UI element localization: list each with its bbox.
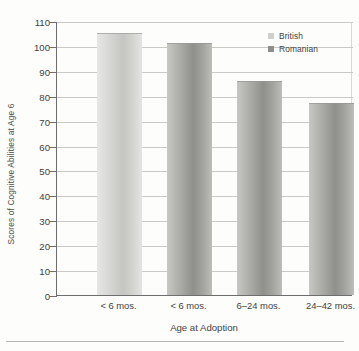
legend-item: Romanian <box>268 43 318 54</box>
bar-cap <box>167 43 212 44</box>
y-axis-tick-label: 60 <box>4 141 50 152</box>
y-axis-tick <box>49 22 57 23</box>
x-axis-tick-labels: < 6 mos.< 6 mos.6–24 mos.24–42 mos. <box>56 300 352 316</box>
y-axis-tick-label: 10 <box>4 266 50 277</box>
bar-cap <box>97 33 142 34</box>
y-axis-tick-label: 50 <box>4 166 50 177</box>
bar <box>309 103 354 295</box>
y-axis-tick-label: 70 <box>4 116 50 127</box>
y-axis-tick <box>49 122 57 123</box>
y-axis-tick <box>49 47 57 48</box>
bar <box>167 43 212 295</box>
y-axis-tick <box>49 296 57 297</box>
legend-swatch-british <box>268 33 274 39</box>
y-axis-tick <box>49 147 57 148</box>
y-axis-tick <box>49 271 57 272</box>
y-axis-tick-label: 100 <box>4 41 50 52</box>
gridline <box>57 22 353 23</box>
bar <box>97 33 142 295</box>
y-axis-tick <box>49 196 57 197</box>
y-axis-tick-label: 110 <box>4 17 50 28</box>
x-axis-tick-label: 24–42 mos. <box>286 300 359 311</box>
y-axis-tick <box>49 221 57 222</box>
plot-area <box>56 22 352 296</box>
y-axis-tick-label: 90 <box>4 66 50 77</box>
legend-label: Romanian <box>279 44 318 54</box>
bar-cap <box>237 81 282 82</box>
legend-swatch-romanian <box>268 46 274 52</box>
y-axis-tick-label: 40 <box>4 191 50 202</box>
bar <box>237 81 282 295</box>
y-axis-tick-label: 20 <box>4 241 50 252</box>
bar-cap <box>309 103 354 104</box>
chart-legend: BritishRomanian <box>268 30 318 56</box>
legend-item: British <box>268 30 318 41</box>
y-axis-tick <box>49 72 57 73</box>
y-axis-tick-labels: 0102030405060708090100110 <box>0 22 50 296</box>
y-axis-tick <box>49 171 57 172</box>
page-rule <box>6 341 344 342</box>
y-axis-tick-label: 80 <box>4 91 50 102</box>
bar-chart: Scores of Cognitive Abilities at Age 6 0… <box>0 0 359 351</box>
legend-label: British <box>279 31 303 41</box>
y-axis-tick <box>49 246 57 247</box>
y-axis-tick-label: 30 <box>4 216 50 227</box>
y-axis-tick-label: 0 <box>4 291 50 302</box>
y-axis-tick <box>49 97 57 98</box>
x-axis-title: Age at Adoption <box>56 322 352 333</box>
